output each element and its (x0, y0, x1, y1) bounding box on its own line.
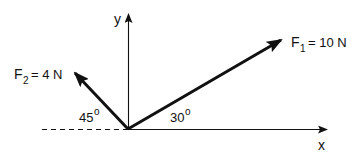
force-label-f1: F 1 = 10 N (291, 34, 347, 54)
f2-symbol: F (14, 66, 23, 82)
f2-value: = 4 N (31, 67, 62, 82)
force-diagram: y x F 1 = 10 N F 2 = 4 N 45 o 30 o (0, 0, 362, 156)
force-label-f2: F 2 = 4 N (14, 66, 62, 86)
angle-f2-value: 45 (79, 110, 93, 125)
y-axis-label: y (114, 11, 121, 27)
degree-symbol-f1: o (185, 106, 191, 117)
f1-value: = 10 N (308, 35, 347, 50)
force-vector-f1 (128, 40, 281, 129)
degree-symbol-f2: o (94, 106, 100, 117)
angle-f1-value: 30 (170, 110, 184, 125)
x-axis-label: x (318, 137, 325, 153)
angle-label-f2: 45 o (79, 106, 100, 125)
f1-symbol: F (291, 34, 300, 50)
f1-subscript: 1 (300, 43, 306, 54)
angle-label-f1: 30 o (170, 106, 191, 125)
f2-subscript: 2 (23, 75, 29, 86)
